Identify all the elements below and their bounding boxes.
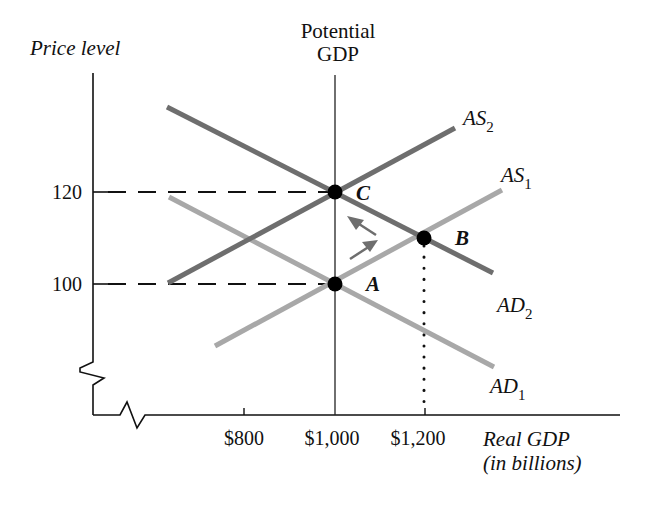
arrow-a-to-b-icon (350, 240, 378, 259)
potential-gdp-label-line2: GDP (317, 42, 359, 66)
as1-label: AS1 (499, 163, 532, 192)
as1-curve (215, 190, 502, 346)
x-tick-label-800: $800 (224, 427, 264, 449)
x-axis-label-line2: (in billions) (483, 451, 582, 475)
as1-label-sub: 1 (524, 176, 532, 192)
y-axis (80, 73, 104, 415)
potential-gdp-label-line1: Potential (301, 19, 376, 43)
as2-label-main: AS (461, 106, 487, 130)
point-c-label: C (356, 181, 371, 205)
as-ad-diagram: Price level Potential GDP 120 100 $800 $… (0, 0, 659, 505)
ad1-label-main: AD (488, 374, 518, 398)
axes (80, 73, 620, 428)
y-tick-label-100: 100 (52, 273, 82, 295)
y-axis-label: Price level (29, 36, 121, 60)
ad2-label: AD2 (495, 293, 533, 322)
as1-label-main: AS (499, 163, 525, 187)
x-axis-label-line1: Real GDP (482, 427, 570, 451)
point-a (328, 277, 343, 292)
y-tick-label-120: 120 (52, 181, 82, 203)
point-a-label: A (364, 272, 380, 296)
point-b (417, 231, 432, 246)
ad2-label-main: AD (495, 293, 525, 317)
x-axis (93, 402, 620, 428)
as2-label-sub: 2 (486, 119, 494, 135)
ad1-label-sub: 1 (518, 387, 526, 403)
x-tick-label-1000: $1,000 (305, 427, 360, 449)
as2-label: AS2 (461, 106, 494, 135)
point-b-label: B (454, 226, 469, 250)
arrow-b-to-c-icon (347, 216, 376, 235)
ad2-label-sub: 2 (525, 306, 533, 322)
as2-curve (168, 128, 455, 283)
ad1-label: AD1 (488, 374, 526, 403)
x-tick-label-1200: $1,200 (391, 427, 446, 449)
point-c (328, 185, 343, 200)
